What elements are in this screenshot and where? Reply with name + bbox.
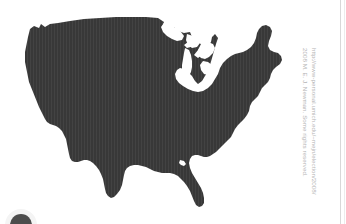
page-canvas: http://www-personal.umich.edu/~mejn/elec… [0, 0, 346, 224]
attribution-url: http://www-personal.umich.edu/~mejn/elec… [311, 48, 319, 218]
right-margin-rule-secondary [344, 0, 345, 224]
us-map-figure [12, 12, 312, 217]
attribution-text: http://www-personal.umich.edu/~mejn/elec… [300, 48, 318, 218]
us-map-svg [12, 12, 312, 217]
us-map-shape [25, 17, 282, 207]
attribution-copyright: 2008 M. E. J. Newman. Some rights reserv… [302, 48, 310, 218]
right-margin-rule [340, 0, 341, 224]
